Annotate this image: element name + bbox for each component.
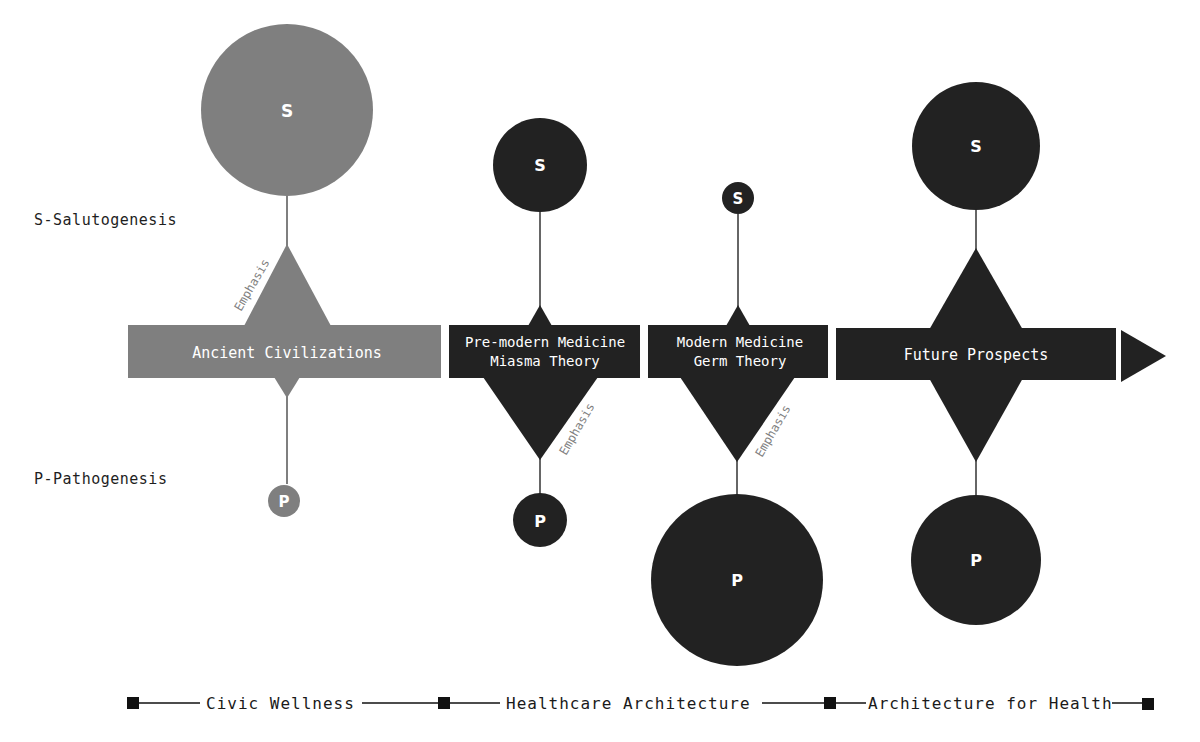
- s-symbol: S: [733, 190, 744, 208]
- small-triangle-down: [274, 377, 300, 398]
- stage-label-line1: Pre-modern Medicine: [465, 334, 625, 350]
- p-symbol: P: [970, 551, 982, 570]
- stage-modern: S P Modern Medicine Germ Theory Emphasis: [648, 182, 828, 666]
- p-symbol: P: [731, 571, 743, 590]
- p-symbol: P: [279, 493, 290, 511]
- small-triangle-up: [726, 305, 750, 326]
- small-triangle-up: [528, 305, 552, 326]
- p-symbol: P: [534, 512, 546, 531]
- legend-item-healthcare-architecture: Healthcare Architecture: [506, 694, 751, 713]
- stage-future: S P Future Prospects: [836, 82, 1166, 625]
- legend: Civic Wellness Healthcare Architecture A…: [0, 690, 1200, 720]
- legend-item-architecture-for-health: Architecture for Health: [868, 694, 1113, 713]
- bar-segment-modern: [648, 325, 828, 378]
- stage-premodern: S P Pre-modern Medicine Miasma Theory Em…: [449, 118, 640, 547]
- s-symbol: S: [534, 156, 546, 175]
- timeline-diagram: S P Ancient Civilizations Emphasis S P P…: [0, 0, 1200, 742]
- legend-item-civic-wellness: Civic Wellness: [206, 694, 355, 713]
- s-symbol: S: [970, 137, 982, 156]
- stage-label-line1: Modern Medicine: [677, 334, 803, 350]
- stage-label: Future Prospects: [904, 346, 1049, 364]
- stage-ancient: S P Ancient Civilizations Emphasis: [128, 24, 441, 517]
- stage-label-line2: Germ Theory: [694, 353, 787, 369]
- s-symbol: S: [281, 101, 293, 121]
- stage-label-line2: Miasma Theory: [490, 353, 600, 369]
- bar-segment-premodern: [449, 325, 640, 378]
- stage-label: Ancient Civilizations: [192, 344, 382, 362]
- timeline-arrowhead: [1121, 330, 1166, 382]
